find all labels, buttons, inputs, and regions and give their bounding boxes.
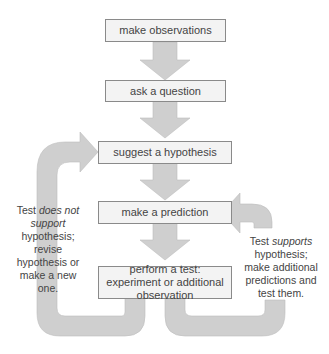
down-arrow-icon [140, 223, 190, 260]
step-ask-question: ask a question [105, 80, 226, 102]
step-make-observations: make observations [105, 19, 226, 42]
step-make-prediction: make a prediction [98, 201, 232, 224]
note-not-supported: Test does not support hypothesis; revise… [12, 204, 84, 295]
step-label: suggest a hypothesis [113, 146, 216, 159]
step-label: perform a test: experiment or additional… [105, 263, 225, 302]
step-label: make a prediction [122, 206, 209, 219]
step-perform-test: perform a test: experiment or additional… [98, 266, 232, 299]
down-arrow-icon [140, 42, 190, 80]
note-supported: Test supports hypothesis; make additiona… [241, 235, 321, 300]
down-arrow-icon [140, 101, 190, 138]
step-label: ask a question [130, 85, 201, 98]
down-arrow-icon [140, 163, 190, 200]
step-label: make observations [119, 24, 211, 37]
loop-arrow-right-icon [165, 298, 285, 336]
step-suggest-hypothesis: suggest a hypothesis [98, 141, 232, 164]
